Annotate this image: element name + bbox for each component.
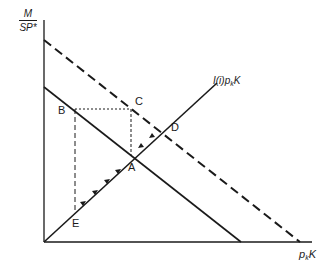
point-label-c: C (135, 96, 143, 107)
curve-label-prefix: I(i)p (213, 75, 230, 86)
point-label-a: A (128, 162, 135, 173)
y-axis-label-numerator: M (19, 9, 37, 21)
y-axis-label-denominator: SP* (17, 21, 39, 33)
arrows-d-to-a-icon (138, 133, 155, 148)
curve-label: I(i)pkK (213, 76, 240, 87)
arrows-e-to-a-icon (80, 169, 121, 206)
x-axis-label: pkK (299, 249, 316, 261)
diagram-canvas (0, 0, 330, 273)
curve-label-tail: K (234, 75, 241, 86)
x-axis-label-tail: K (309, 248, 316, 260)
y-axis-label: M SP* (17, 9, 39, 33)
point-label-e: E (72, 218, 79, 229)
dashed-budget-line (44, 40, 300, 242)
point-label-b: B (58, 105, 65, 116)
point-label-d: D (171, 122, 179, 133)
